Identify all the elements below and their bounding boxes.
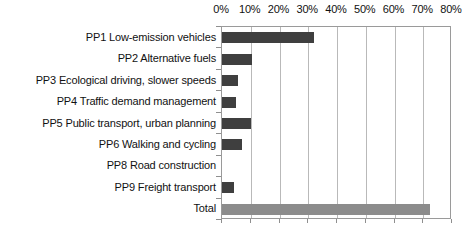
gridline (423, 27, 424, 218)
bar-chart: 0%10%20%30%40%50%60%70%80% PP1 Low-emiss… (0, 0, 467, 234)
category-label: PP8 Road construction (0, 159, 216, 171)
x-tick-label: 20% (268, 3, 289, 16)
y-tick-mark (216, 90, 221, 91)
bar (222, 54, 252, 65)
category-label: PP5 Public transport, urban planning (0, 117, 216, 129)
category-label: PP6 Walking and cycling (0, 138, 216, 150)
bar (222, 118, 251, 129)
bar (222, 182, 234, 193)
y-tick-mark (216, 69, 221, 70)
category-label: PP9 Freight transport (0, 181, 216, 193)
x-axis-tick-labels: 0%10%20%30%40%50%60%70%80% (221, 3, 451, 19)
x-tick-label: 50% (354, 3, 375, 16)
x-tick-label: 60% (383, 3, 404, 16)
bar (222, 139, 242, 150)
gridline (308, 27, 309, 218)
bar (222, 75, 238, 86)
gridline (280, 27, 281, 218)
y-tick-mark (216, 112, 221, 113)
x-tick-mark (250, 219, 251, 223)
gridline (395, 27, 396, 218)
category-label: PP2 Alternative fuels (0, 52, 216, 64)
category-label: Total (0, 202, 216, 214)
x-tick-mark (307, 219, 308, 223)
x-tick-mark (221, 219, 222, 223)
x-tick-mark (451, 219, 452, 223)
y-tick-mark (216, 47, 221, 48)
y-tick-mark (216, 155, 221, 156)
x-tick-mark (422, 219, 423, 223)
y-tick-mark (216, 26, 221, 27)
x-tick-mark (279, 219, 280, 223)
bar (222, 204, 430, 215)
category-label: PP3 Ecological driving, slower speeds (0, 74, 216, 86)
y-tick-mark (216, 219, 221, 220)
x-tick-label: 40% (325, 3, 346, 16)
x-tick-label: 0% (213, 3, 229, 16)
x-tick-label: 30% (297, 3, 318, 16)
y-tick-mark (216, 198, 221, 199)
x-tick-mark (336, 219, 337, 223)
gridline (366, 27, 367, 218)
y-axis-tick-marks (216, 26, 221, 219)
plot-area (221, 26, 451, 219)
x-tick-label: 10% (239, 3, 260, 16)
y-tick-mark (216, 133, 221, 134)
bar (222, 32, 314, 43)
x-tick-mark (394, 219, 395, 223)
x-axis-tick-marks (221, 219, 451, 224)
gridline (337, 27, 338, 218)
category-label: PP4 Traffic demand management (0, 95, 216, 107)
x-tick-label: 80% (440, 3, 461, 16)
x-tick-label: 70% (412, 3, 433, 16)
x-tick-mark (365, 219, 366, 223)
category-labels: PP1 Low-emission vehiclesPP2 Alternative… (0, 26, 216, 219)
category-label: PP1 Low-emission vehicles (0, 31, 216, 43)
bar (222, 97, 236, 108)
y-tick-mark (216, 176, 221, 177)
